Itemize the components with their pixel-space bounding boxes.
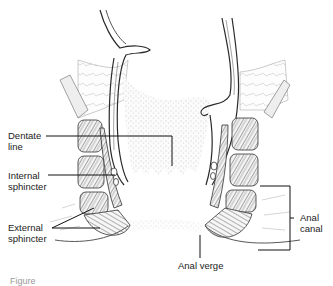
label-external-sphincter: External sphincter: [8, 222, 47, 244]
label-anal-verge: Anal verge: [178, 260, 223, 271]
figure-caption: Figure: [10, 276, 36, 286]
rectal-lumen: [122, 75, 210, 176]
label-anal-canal: Anal canal: [300, 212, 323, 234]
anal-canal-lumen: [128, 175, 200, 225]
anal-canal-bracket: [258, 186, 290, 250]
label-dentate-line: Dentate line: [8, 130, 41, 152]
label-internal-sphincter: Internal sphincter: [8, 170, 47, 192]
